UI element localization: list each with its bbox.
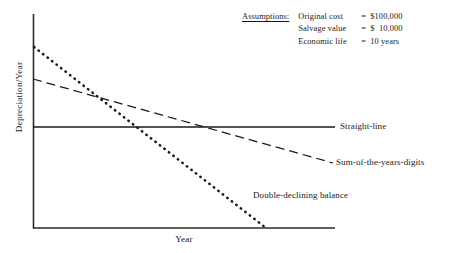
assumption-equals-original-cost: = xyxy=(361,11,370,23)
assumption-value-economic-life: 10 years xyxy=(370,36,399,48)
series-double-declining-balance xyxy=(34,47,266,228)
series-label-sum-of-the-years-digits: Sum-of-the-years-digits xyxy=(336,157,424,167)
assumption-row-economic-life: Economic life = 10 years xyxy=(298,36,402,48)
assumption-equals-salvage-value: = xyxy=(361,23,370,35)
depreciation-methods-figure: Assumptions: Original cost = $100,000 Sa… xyxy=(0,0,463,253)
assumptions-rows: Original cost = $100,000 Salvage value =… xyxy=(298,11,402,48)
assumption-value-salvage-value: $ 10,000 xyxy=(370,23,402,35)
assumption-row-original-cost: Original cost = $100,000 xyxy=(298,11,402,23)
assumption-label-economic-life: Economic life xyxy=(298,36,361,48)
y-axis-title: Depreciation/Year xyxy=(14,42,24,152)
assumption-row-salvage-value: Salvage value = $ 10,000 xyxy=(298,23,402,35)
series-sum-of-the-years-digits xyxy=(33,79,333,163)
assumptions-block: Assumptions: Original cost = $100,000 Sa… xyxy=(242,11,403,48)
assumption-value-original-cost: $100,000 xyxy=(370,11,402,23)
x-axis-title: Year xyxy=(33,234,335,244)
assumption-equals-economic-life: = xyxy=(361,36,370,48)
series-label-double-declining-balance: Double-declining balance xyxy=(253,190,348,200)
assumption-label-salvage-value: Salvage value xyxy=(298,23,361,35)
assumption-label-original-cost: Original cost xyxy=(298,11,361,23)
series-label-straight-line: Straight-line xyxy=(340,121,386,131)
assumptions-heading: Assumptions: xyxy=(242,11,298,23)
